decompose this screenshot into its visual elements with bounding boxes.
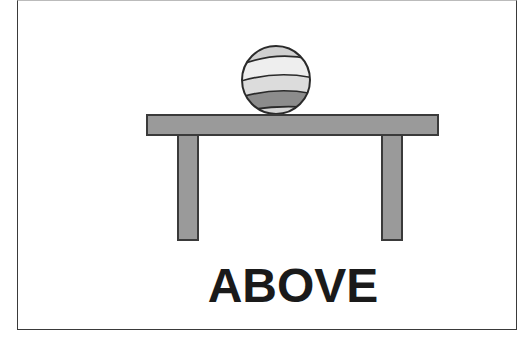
card-label: ABOVE bbox=[0, 258, 521, 313]
table-leg-right bbox=[382, 134, 402, 240]
ball-icon bbox=[238, 44, 314, 118]
table-leg-left bbox=[178, 134, 198, 240]
table-icon bbox=[147, 115, 438, 240]
table-top bbox=[147, 115, 438, 135]
